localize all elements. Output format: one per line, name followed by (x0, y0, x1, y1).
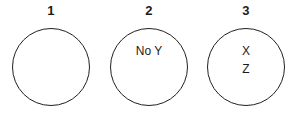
circle-label-3: 3 (198, 3, 291, 18)
diagram-canvas: 1 2 No Y 3 X Z (0, 0, 291, 115)
circle-group-1: 1 (3, 0, 99, 115)
circle-outline-1 (12, 28, 90, 106)
circle-outline-3 (207, 28, 285, 106)
circle-label-1: 1 (3, 3, 99, 18)
circle-label-2: 2 (101, 3, 197, 18)
circle-outline-2 (110, 28, 188, 106)
circle-group-2: 2 No Y (101, 0, 197, 115)
circle-group-3: 3 X Z (198, 0, 291, 115)
